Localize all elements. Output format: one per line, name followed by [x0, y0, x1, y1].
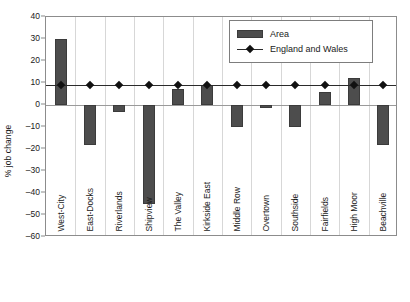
diamond-marker-icon	[144, 81, 152, 89]
y-tick-label: –60	[26, 232, 40, 241]
y-tick-label: 20	[31, 56, 40, 65]
bar	[260, 105, 272, 108]
y-tick-label: –30	[26, 166, 40, 175]
diamond-marker-icon	[379, 81, 387, 89]
bar	[143, 105, 155, 204]
x-category-label: Beachville	[379, 192, 388, 231]
x-category-label: The Valley	[174, 191, 183, 231]
diamond-marker-icon	[291, 81, 299, 89]
job-change-bar-chart: % job change 403020100–10–20–30–40–50–60…	[0, 0, 410, 302]
x-category-label: West-City	[56, 194, 65, 231]
bar	[55, 39, 67, 105]
bar	[172, 89, 184, 106]
bar	[113, 105, 125, 112]
x-category-label: Kirkside East	[203, 181, 212, 231]
y-tick-label: 40	[31, 12, 40, 21]
y-axis-title: % job change	[0, 0, 16, 302]
category-separator	[134, 17, 135, 235]
bar	[289, 105, 301, 127]
diamond-marker-icon	[320, 81, 328, 89]
x-category-label: Southside	[291, 193, 300, 231]
legend-label-area: Area	[270, 29, 289, 39]
category-separator	[105, 17, 106, 235]
bar	[319, 92, 331, 105]
y-axis-tick-labels: 403020100–10–20–30–40–50–60	[16, 16, 45, 236]
x-category-label: Middle Row	[232, 187, 241, 231]
x-category-label: Overtown	[262, 195, 271, 231]
category-separator	[193, 17, 194, 235]
legend-line-swatch-icon	[237, 45, 263, 53]
bar	[231, 105, 243, 127]
bar	[377, 105, 389, 145]
legend-label-england-and-wales: England and Wales	[270, 44, 348, 54]
category-separator	[75, 17, 76, 235]
diamond-marker-icon	[115, 81, 123, 89]
y-tick-label: –20	[26, 144, 40, 153]
y-tick-label: –50	[26, 210, 40, 219]
x-category-label: Riverlands	[115, 191, 124, 231]
y-tick-label: 30	[31, 34, 40, 43]
diamond-marker-icon	[262, 81, 270, 89]
category-separator	[222, 17, 223, 235]
bar	[84, 105, 96, 145]
x-category-label: High Moor	[350, 192, 359, 231]
category-separator	[163, 17, 164, 235]
legend-entry-england-and-wales: England and Wales	[237, 41, 365, 56]
legend-entry-area: Area	[237, 26, 365, 41]
y-tick-label: –40	[26, 188, 40, 197]
x-category-label: East-Docks	[86, 188, 95, 231]
zero-baseline	[46, 105, 396, 106]
chart-legend: Area England and Wales	[229, 20, 373, 63]
x-category-label: Fairfields	[320, 197, 329, 231]
legend-bar-swatch-icon	[237, 30, 263, 38]
x-category-label: Shipview	[144, 197, 153, 231]
diamond-marker-icon	[86, 81, 94, 89]
y-tick-label: 0	[35, 100, 40, 109]
diamond-marker-icon	[232, 81, 240, 89]
y-tick-label: 10	[31, 78, 40, 87]
reference-line	[46, 85, 396, 86]
y-tick-label: –10	[26, 122, 40, 131]
